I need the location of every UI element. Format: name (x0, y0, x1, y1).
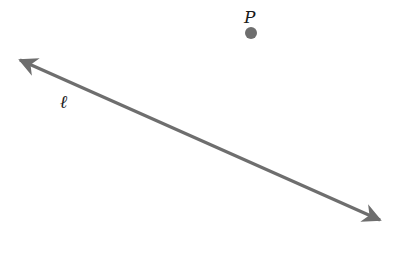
line-l (20, 60, 380, 220)
point-p-label: P (243, 7, 256, 27)
diagram-svg: P ℓ (0, 0, 410, 257)
diagram-canvas: P ℓ (0, 0, 410, 257)
point-p-dot (245, 27, 257, 39)
line-l-label: ℓ (60, 91, 68, 112)
